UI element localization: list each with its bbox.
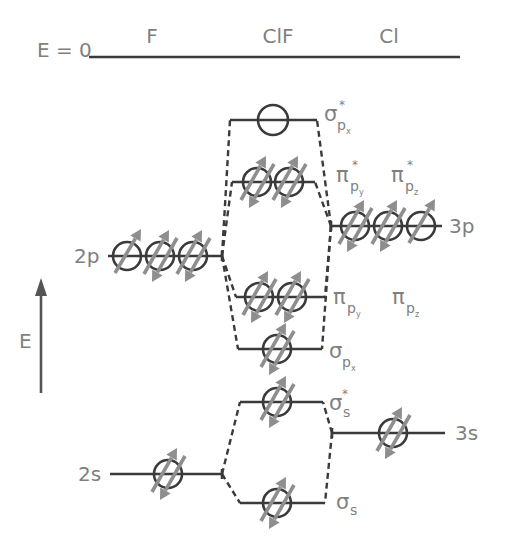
atomic-level-f-2p bbox=[108, 229, 222, 282]
mo-label-pi-py: π p y bbox=[333, 285, 361, 319]
atomic-level-cl-3p bbox=[331, 199, 442, 252]
energy-zero-label: E = 0 bbox=[37, 38, 92, 62]
orbital bbox=[113, 229, 141, 273]
mo-label-sigma-s-star: σ s * bbox=[329, 387, 355, 421]
column-label-f: F bbox=[146, 24, 158, 48]
mo-label-sigma-px: σ p x bbox=[329, 339, 356, 373]
energy-axis-label: E bbox=[19, 329, 32, 353]
mo-level-sigma-px bbox=[238, 323, 322, 375]
level-label-f-2p: 2p bbox=[74, 244, 99, 268]
mo-label-sigma-s: σ s bbox=[336, 490, 357, 518]
level-label-f-2s: 2s bbox=[78, 462, 101, 486]
mo-label-pi-py-star: π p y * bbox=[336, 158, 369, 199]
orbital bbox=[407, 199, 435, 243]
mo-label-sigma-px-star: σ p x * bbox=[324, 98, 356, 138]
energy-axis-arrow-icon bbox=[35, 278, 47, 393]
column-label-cl: Cl bbox=[379, 24, 399, 48]
mo-level-sigma-s bbox=[240, 477, 325, 529]
mo-level-sigma-px-star bbox=[230, 105, 317, 135]
mo-label-pi-pz-star: π p z * bbox=[391, 158, 423, 199]
mo-level-pi bbox=[236, 271, 325, 323]
atomic-level-f-2s bbox=[110, 448, 222, 500]
mo-label-pi-pz: π p z bbox=[392, 285, 420, 319]
level-label-cl-3p: 3p bbox=[449, 214, 474, 238]
mo-level-sigma-s-star bbox=[240, 376, 323, 428]
mo-diagram: E = 0 F ClF Cl E 2p bbox=[0, 0, 506, 559]
column-label-clf: ClF bbox=[262, 24, 293, 48]
mo-level-pi-star bbox=[232, 156, 315, 208]
level-label-cl-3s: 3s bbox=[455, 421, 478, 445]
